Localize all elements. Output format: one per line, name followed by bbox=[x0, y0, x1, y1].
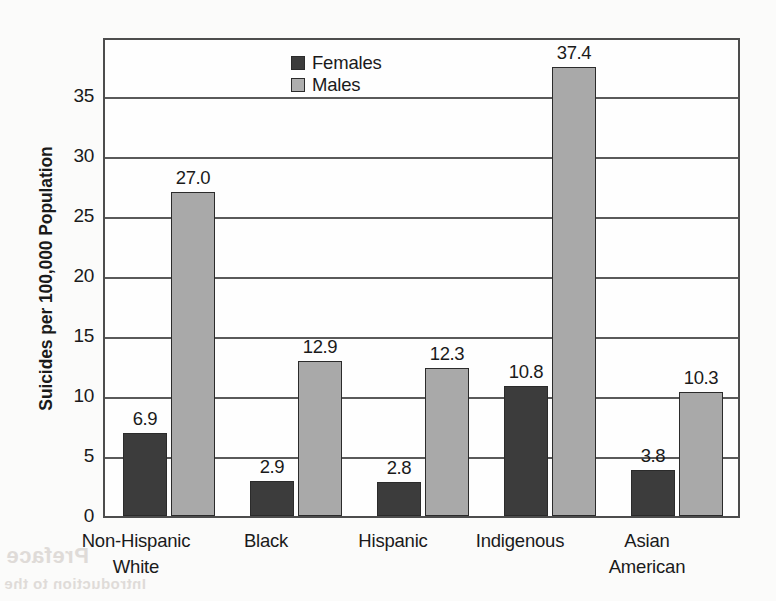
bar-males-non-hispanic-white[interactable] bbox=[171, 192, 215, 516]
y-tick-label-20: 20 bbox=[34, 265, 94, 287]
bar-males-black[interactable] bbox=[298, 361, 342, 516]
bar-males-asian-american[interactable] bbox=[679, 392, 723, 516]
x-tick-line-2: White bbox=[61, 554, 211, 580]
value-label-males-hispanic: 12.3 bbox=[415, 343, 479, 365]
bar-females-indigenous[interactable] bbox=[504, 386, 548, 516]
plot-area: 6.9 27.0 2.9 12.9 2.8 12.3 10.8 37.4 3.8… bbox=[103, 38, 740, 518]
value-label-males-indigenous: 37.4 bbox=[542, 42, 606, 64]
female-swatch-icon bbox=[291, 56, 305, 70]
legend-label-females: Females bbox=[312, 52, 382, 74]
gridline-30 bbox=[105, 157, 738, 159]
y-tick-label-25: 25 bbox=[34, 205, 94, 227]
x-tick-label-asian-american: Asian American bbox=[572, 528, 722, 580]
x-tick-line-1: Non-Hispanic bbox=[61, 528, 211, 554]
y-tick-label-0: 0 bbox=[34, 505, 94, 527]
bar-males-hispanic[interactable] bbox=[425, 368, 469, 516]
bar-males-indigenous[interactable] bbox=[552, 67, 596, 516]
gridline-35 bbox=[105, 97, 738, 99]
bar-females-hispanic[interactable] bbox=[377, 482, 421, 516]
y-tick-label-15: 15 bbox=[34, 325, 94, 347]
bar-chart-figure: Preface Introduction to the Suicides per… bbox=[0, 0, 776, 601]
value-label-females-indigenous: 10.8 bbox=[492, 361, 560, 383]
value-label-females-non-hispanic-white: 6.9 bbox=[113, 408, 177, 430]
y-tick-label-35: 35 bbox=[34, 85, 94, 107]
chart-legend: Females Males bbox=[291, 52, 382, 96]
value-label-females-asian-american: 3.8 bbox=[621, 445, 685, 467]
legend-entry-females[interactable]: Females bbox=[291, 52, 382, 74]
x-tick-line-2: American bbox=[572, 554, 722, 580]
bar-females-non-hispanic-white[interactable] bbox=[123, 433, 167, 516]
y-tick-label-30: 30 bbox=[34, 145, 94, 167]
y-tick-label-5: 5 bbox=[34, 445, 94, 467]
bar-females-asian-american[interactable] bbox=[631, 470, 675, 516]
y-tick-label-10: 10 bbox=[34, 385, 94, 407]
value-label-females-black: 2.9 bbox=[240, 456, 304, 478]
value-label-females-hispanic: 2.8 bbox=[367, 457, 431, 479]
x-tick-line-1: Asian bbox=[572, 528, 722, 554]
bar-females-black[interactable] bbox=[250, 481, 294, 516]
value-label-males-asian-american: 10.3 bbox=[667, 367, 735, 389]
x-tick-label-non-hispanic-white: Non-Hispanic White bbox=[61, 528, 211, 580]
legend-label-males: Males bbox=[312, 74, 360, 96]
legend-entry-males[interactable]: Males bbox=[291, 74, 382, 96]
value-label-males-non-hispanic-white: 27.0 bbox=[161, 167, 225, 189]
value-label-males-black: 12.9 bbox=[288, 336, 352, 358]
male-swatch-icon bbox=[291, 78, 305, 92]
